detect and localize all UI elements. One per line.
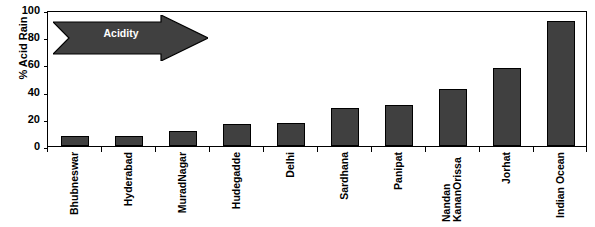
x-axis-category-label-text: Jorhat <box>501 152 512 184</box>
bar-slot <box>210 12 264 146</box>
x-axis-category-label-text: Bhubneswar <box>69 152 80 215</box>
x-axis-category-labels: BhubneswarHyderabadMuradNagarHudegaddeDe… <box>47 152 587 227</box>
y-axis-tick-mark <box>44 121 48 122</box>
bar-slot <box>264 12 318 146</box>
x-axis-category-label-line: KananOrissa <box>452 152 463 222</box>
bar <box>169 131 197 146</box>
x-axis-category-label: Delhi <box>263 152 317 224</box>
y-axis-tick-mark <box>44 39 48 40</box>
y-axis-tick-labels: 020406080100 <box>14 0 40 227</box>
x-axis-category-label-text: Panipat <box>393 152 404 190</box>
plot-area: Acidity <box>47 11 587 147</box>
bar <box>61 136 89 146</box>
y-axis-tick-mark <box>44 66 48 67</box>
bar <box>385 105 413 146</box>
x-axis-category-label: Indian Ocean <box>533 152 587 224</box>
y-axis-tick-label: 20 <box>14 114 40 125</box>
y-axis-tick-label: 100 <box>14 5 40 16</box>
x-axis-category-label: Sardhana <box>317 152 371 224</box>
y-axis-tick-label: 80 <box>14 32 40 43</box>
bar-slot <box>318 12 372 146</box>
x-axis-category-label: Bhubneswar <box>47 152 101 224</box>
y-axis-tick-label: 0 <box>14 141 40 152</box>
bar <box>277 123 305 146</box>
bar-slot <box>534 12 588 146</box>
bar <box>331 108 359 146</box>
x-axis-category-label: NandanKananOrissa <box>425 152 479 224</box>
x-axis-category-label-text: Indian Ocean <box>555 152 566 218</box>
x-axis-category-label-text: Sardhana <box>339 152 350 200</box>
x-axis-category-label-text: MuradNagar <box>177 152 188 213</box>
bar <box>223 124 251 146</box>
bar-slot <box>372 12 426 146</box>
bar <box>547 21 575 146</box>
x-axis-category-label: MuradNagar <box>155 152 209 224</box>
x-axis-category-label: Hudegadde <box>209 152 263 224</box>
y-axis-tick-mark <box>44 94 48 95</box>
bar-slot <box>426 12 480 146</box>
x-axis-category-label-text: Hudegadde <box>231 152 242 209</box>
x-axis-category-label-text: Hyderabad <box>123 152 134 206</box>
x-axis-category-label: Panipat <box>371 152 425 224</box>
x-axis-category-label-text: Delhi <box>285 152 296 178</box>
acidity-arrow-icon <box>53 15 208 61</box>
bar <box>439 89 467 146</box>
x-axis-category-label: Hyderabad <box>101 152 155 224</box>
acid-rain-bar-chart: % Acid Rain 020406080100 Acidity Bhubnes… <box>0 0 595 227</box>
bar-slot <box>480 12 534 146</box>
bar <box>115 136 143 146</box>
x-axis-category-label: Jorhat <box>479 152 533 224</box>
y-axis-tick-label: 60 <box>14 59 40 70</box>
y-axis-tick-label: 40 <box>14 87 40 98</box>
bar <box>493 68 521 146</box>
y-axis-tick-mark <box>44 12 48 13</box>
x-axis-category-label-text: NandanKananOrissa <box>441 152 463 222</box>
